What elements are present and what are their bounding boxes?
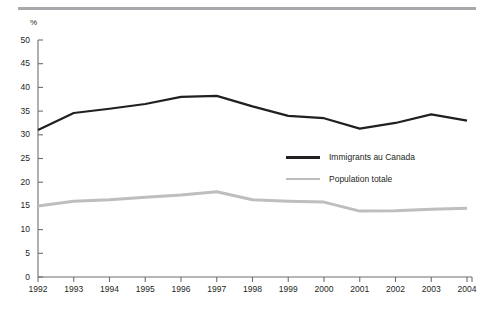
legend-swatch-population	[286, 178, 320, 181]
x-axis-tick-label: 2004	[447, 285, 486, 294]
x-axis-tick-label: 1998	[233, 285, 273, 294]
x-axis-tick-label: 1999	[268, 285, 308, 294]
y-axis-tick-label: 45	[8, 59, 30, 68]
chart-figure: % 05101520253035404550 19921993199419951…	[0, 0, 486, 311]
y-axis-tick-label: 40	[8, 83, 30, 92]
y-axis-tick-label: 50	[8, 36, 30, 45]
x-axis-tick-label: 1992	[18, 285, 58, 294]
x-axis-tick-label: 1997	[197, 285, 237, 294]
chart-legend: Immigrants au Canada Population totale	[286, 146, 415, 190]
y-axis-tick-label: 35	[8, 107, 30, 116]
x-axis-tick-label: 1995	[125, 285, 165, 294]
x-axis-tick-label: 1996	[161, 285, 201, 294]
y-axis-tick-label: 25	[8, 154, 30, 163]
legend-item-population: Population totale	[286, 168, 415, 190]
x-axis-tick-label: 2003	[411, 285, 451, 294]
x-axis-tick-label: 2002	[376, 285, 416, 294]
y-axis-tick-label: 5	[8, 249, 30, 258]
legend-item-immigrants: Immigrants au Canada	[286, 146, 415, 168]
x-axis-tick-label: 2000	[304, 285, 344, 294]
legend-label-immigrants: Immigrants au Canada	[329, 152, 415, 162]
legend-swatch-immigrants	[286, 156, 320, 159]
legend-label-population: Population totale	[329, 174, 392, 184]
y-axis-tick-label: 30	[8, 130, 30, 139]
x-axis-tick-label: 1994	[90, 285, 130, 294]
x-axis-tick-label: 1993	[54, 285, 94, 294]
y-axis-tick-label: 15	[8, 201, 30, 210]
y-axis-tick-label: 0	[8, 273, 30, 282]
x-axis-tick-label: 2001	[340, 285, 380, 294]
y-axis-tick-label: 20	[8, 178, 30, 187]
y-axis-tick-label: 10	[8, 225, 30, 234]
